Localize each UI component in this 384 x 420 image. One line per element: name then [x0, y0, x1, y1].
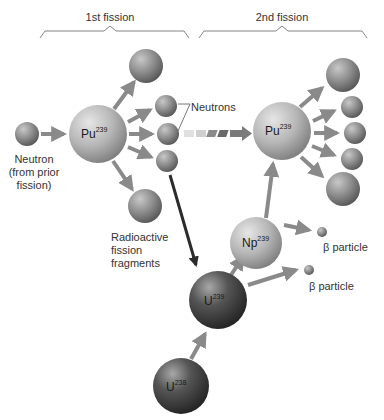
capture-arrow: [170, 175, 196, 265]
neutron-2: [157, 123, 179, 145]
arrow-pu-to-fragment-bottom: [113, 161, 132, 189]
second-neutron-3: [341, 148, 363, 170]
beta-particle-1: [317, 227, 327, 237]
second-fission-label: 2nd fission: [256, 11, 309, 23]
incoming-neutron: [15, 122, 39, 146]
pu239-first-nucleus: [69, 105, 127, 163]
second-fragment-top: [326, 58, 360, 92]
arrow-pu-to-fragment-top: [114, 82, 134, 109]
arrow-np-to-beta: [284, 225, 309, 230]
fission-fragment-bottom: [128, 189, 162, 223]
beta-particle-label-2: β particle: [309, 280, 354, 292]
neutron-label-line2: (from prior: [9, 166, 60, 178]
arrow-u239-to-beta: [248, 270, 296, 285]
fission-fragment-top: [129, 49, 163, 83]
fragments-label-line1: Radioactive: [111, 231, 168, 243]
beta-particle-2: [304, 265, 314, 275]
fragments-label-line3: fragments: [111, 257, 160, 269]
neutron-label-line1: Neutron: [14, 153, 53, 165]
arrow-pu2-to-fragment-bottom: [301, 157, 322, 176]
fragments-label-line2: fission: [111, 244, 142, 256]
arrow-pu2-to-fragment-top: [300, 88, 322, 107]
arrow-pu-to-neutron-3: [128, 147, 151, 157]
u239-nucleus: [189, 271, 247, 329]
neutron-transfer-arrow: [184, 126, 252, 141]
arrow-u238-to-u239: [191, 334, 205, 359]
first-fission-label: 1st fission: [86, 11, 135, 23]
u238-nucleus: [153, 358, 209, 414]
arrow-pu2-to-neutron-1: [313, 111, 334, 121]
neutron-1: [155, 95, 177, 117]
pu239-second-nucleus: [253, 102, 311, 160]
beta-particle-label-1: β particle: [323, 241, 368, 253]
fission-diagram: 1st fission 2nd fission: [0, 0, 384, 420]
neutrons-label: Neutrons: [191, 101, 236, 113]
arrow-pu-to-neutron-1: [128, 110, 150, 122]
neutron-3: [156, 150, 178, 172]
second-neutron-1: [341, 96, 363, 118]
neutrons-callout-line: [178, 104, 190, 131]
first-fission-brace: [40, 26, 189, 38]
second-fission-brace: [199, 26, 367, 38]
second-fragment-bottom: [326, 172, 360, 206]
arrow-np-to-pu: [266, 164, 273, 218]
arrow-pu2-to-neutron-3: [312, 146, 334, 155]
second-neutron-2: [344, 122, 366, 144]
neutron-label-line3: fission): [17, 179, 52, 191]
